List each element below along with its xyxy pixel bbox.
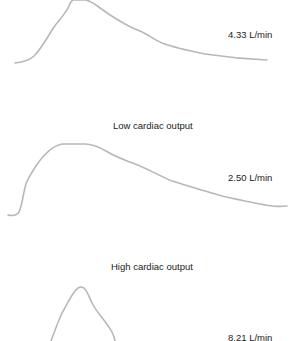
high-output-title: High cardiac output — [111, 262, 193, 272]
normal-output-value: 4.33 L/min — [228, 30, 272, 40]
low-output-value: 2.50 L/min — [228, 173, 272, 183]
high-output-curve — [51, 287, 115, 341]
low-output-title: Low cardiac output — [113, 121, 193, 131]
high-output-value: 8.21 L/min — [228, 333, 272, 341]
thermodilution-curves — [0, 0, 298, 341]
